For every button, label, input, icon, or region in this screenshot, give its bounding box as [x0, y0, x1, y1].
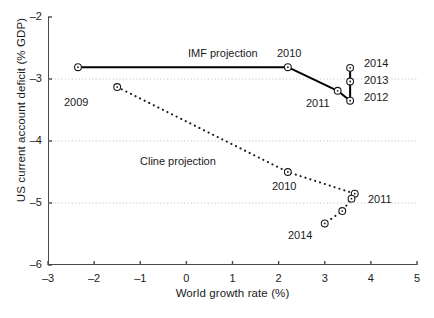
x-tick-label: –1: [125, 272, 155, 284]
series-label: IMF projection: [188, 47, 258, 59]
point-year-label: 2011: [306, 97, 330, 109]
point-year-label: 2012: [364, 91, 388, 103]
x-tick-label: 4: [356, 272, 386, 284]
point-year-label: 2009: [64, 96, 88, 108]
data-point-marker: [347, 97, 354, 104]
x-axis-label: World growth rate (%): [48, 287, 417, 299]
data-point-marker: [339, 208, 346, 215]
point-year-label: 2014: [364, 57, 388, 69]
x-tick-marks-group: [48, 261, 417, 265]
data-point-marker: [348, 195, 355, 202]
series-lines-group: [78, 67, 355, 223]
gridlines-group: [48, 79, 417, 203]
data-point-marker: [321, 220, 328, 227]
y-tick-label: –4: [14, 134, 42, 146]
point-year-label: 2011: [368, 193, 392, 205]
series-markers-group: [75, 64, 359, 227]
point-year-label: 2010: [272, 180, 296, 192]
point-year-label: 2010: [277, 47, 301, 59]
data-point-marker: [114, 84, 121, 91]
point-year-label: 2014: [288, 229, 312, 241]
data-point-marker: [284, 169, 291, 176]
chart-container: US current account deficit (% GDP) World…: [0, 0, 434, 318]
data-point-marker: [347, 64, 354, 71]
x-tick-label: –3: [33, 272, 63, 284]
x-tick-label: 2: [264, 272, 294, 284]
x-tick-label: 5: [402, 272, 432, 284]
data-point-marker: [284, 64, 291, 71]
series-label: Cline projection: [140, 155, 216, 167]
y-tick-label: –3: [14, 72, 42, 84]
x-tick-label: 3: [310, 272, 340, 284]
y-tick-label: –2: [14, 10, 42, 22]
point-year-label: 2013: [364, 74, 388, 86]
data-point-marker: [334, 87, 341, 94]
data-point-marker: [347, 78, 354, 85]
data-point-marker: [75, 64, 82, 71]
x-tick-label: 0: [171, 272, 201, 284]
y-tick-label: –5: [14, 196, 42, 208]
y-tick-label: –6: [14, 258, 42, 270]
y-tick-marks-group: [48, 17, 52, 265]
x-tick-label: 1: [218, 272, 248, 284]
x-tick-label: –2: [79, 272, 109, 284]
